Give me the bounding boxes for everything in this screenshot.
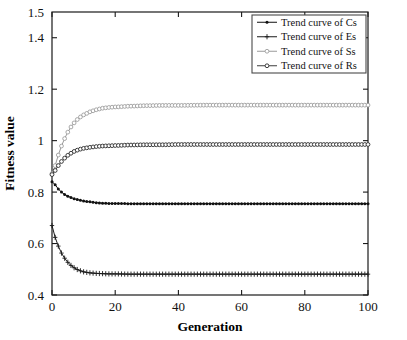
y-tick-label-1.2: 1.2 bbox=[28, 82, 44, 97]
marker-Cs-18 bbox=[107, 202, 110, 205]
legend-label-Cs: Trend curve of Cs bbox=[281, 17, 357, 28]
marker-Cs-49 bbox=[205, 202, 208, 205]
marker-Cs-59 bbox=[237, 202, 240, 205]
marker-Cs-50 bbox=[209, 202, 212, 205]
marker-Cs-55 bbox=[224, 202, 227, 205]
y-tick-label-1: 1 bbox=[38, 133, 45, 148]
marker-Cs-74 bbox=[284, 202, 287, 205]
marker-Cs-39 bbox=[174, 202, 177, 205]
marker-Cs-23 bbox=[123, 202, 126, 205]
y-axis-title: Fitness value bbox=[2, 116, 17, 191]
marker-Ss-6 bbox=[69, 125, 73, 129]
marker-Cs-67 bbox=[262, 202, 265, 205]
marker-Cs-7 bbox=[73, 197, 76, 200]
marker-Cs-64 bbox=[253, 202, 256, 205]
marker-Cs-89 bbox=[332, 202, 335, 205]
marker-Cs-77 bbox=[294, 202, 297, 205]
marker-Cs-75 bbox=[288, 202, 291, 205]
marker-Cs-61 bbox=[243, 202, 246, 205]
marker-Cs-96 bbox=[354, 202, 357, 205]
marker-Cs-11 bbox=[85, 200, 88, 203]
marker-Ss-7 bbox=[72, 121, 76, 125]
marker-Cs-1 bbox=[54, 183, 57, 186]
marker-Cs-92 bbox=[341, 202, 344, 205]
marker-Cs-4 bbox=[63, 193, 66, 196]
marker-Cs-29 bbox=[142, 202, 145, 205]
marker-Cs-22 bbox=[120, 202, 123, 205]
chart-figure: 0204060801000.40.60.811.21.41.5 Generati… bbox=[0, 0, 407, 340]
marker-Ss-100 bbox=[366, 103, 370, 107]
marker-Cs-26 bbox=[133, 202, 136, 205]
marker-Cs-91 bbox=[338, 202, 341, 205]
marker-Cs-19 bbox=[111, 202, 114, 205]
marker-Ss-5 bbox=[66, 130, 70, 134]
marker-Cs-60 bbox=[240, 202, 243, 205]
marker-Cs-73 bbox=[281, 202, 284, 205]
marker-Cs-36 bbox=[164, 202, 167, 205]
marker-Cs-66 bbox=[259, 202, 262, 205]
marker-Cs-98 bbox=[360, 202, 363, 205]
marker-Cs-25 bbox=[130, 202, 133, 205]
x-tick-label-100: 100 bbox=[358, 299, 378, 314]
y-tick-label-1.5: 1.5 bbox=[28, 5, 44, 20]
marker-Cs-54 bbox=[221, 202, 224, 205]
marker-Rs-100 bbox=[366, 143, 370, 147]
y-tick-label-0.6: 0.6 bbox=[28, 236, 45, 251]
marker-Cs-3 bbox=[60, 191, 63, 194]
legend-marker-Ss bbox=[265, 49, 269, 53]
marker-Cs-57 bbox=[231, 202, 234, 205]
legend-label-Es: Trend curve of Es bbox=[281, 31, 356, 42]
legend-marker-Rs bbox=[265, 64, 269, 68]
marker-Cs-34 bbox=[158, 202, 161, 205]
marker-Cs-85 bbox=[319, 202, 322, 205]
marker-Cs-21 bbox=[117, 202, 120, 205]
marker-Rs-3 bbox=[60, 160, 64, 164]
marker-Cs-81 bbox=[306, 202, 309, 205]
marker-Cs-33 bbox=[155, 202, 158, 205]
legend-label-Ss: Trend curve of Ss bbox=[281, 46, 356, 57]
y-tick-label-0.4: 0.4 bbox=[28, 288, 45, 303]
marker-Cs-42 bbox=[183, 202, 186, 205]
marker-Cs-45 bbox=[193, 202, 196, 205]
marker-Cs-97 bbox=[357, 202, 360, 205]
marker-Cs-95 bbox=[351, 202, 354, 205]
marker-Cs-41 bbox=[180, 202, 183, 205]
marker-Cs-51 bbox=[212, 202, 215, 205]
marker-Cs-16 bbox=[101, 202, 104, 205]
marker-Cs-35 bbox=[161, 202, 164, 205]
marker-Rs-0 bbox=[50, 173, 54, 177]
marker-Cs-13 bbox=[92, 201, 95, 204]
marker-Cs-62 bbox=[246, 202, 249, 205]
x-tick-label-0: 0 bbox=[49, 299, 56, 314]
marker-Ss-3 bbox=[60, 144, 64, 148]
marker-Cs-17 bbox=[104, 202, 107, 205]
marker-Cs-48 bbox=[202, 202, 205, 205]
marker-Cs-5 bbox=[66, 195, 69, 198]
marker-Cs-63 bbox=[250, 202, 253, 205]
x-tick-label-60: 60 bbox=[235, 299, 248, 314]
marker-Cs-72 bbox=[278, 202, 281, 205]
marker-Cs-76 bbox=[291, 202, 294, 205]
marker-Cs-47 bbox=[199, 202, 202, 205]
marker-Cs-40 bbox=[177, 202, 180, 205]
marker-Cs-38 bbox=[171, 202, 174, 205]
marker-Cs-43 bbox=[186, 202, 189, 205]
chart-legend[interactable]: Trend curve of CsTrend curve of EsTrend … bbox=[252, 15, 366, 73]
marker-Cs-87 bbox=[325, 202, 328, 205]
marker-Rs-2 bbox=[56, 164, 60, 168]
marker-Cs-6 bbox=[69, 196, 72, 199]
marker-Ss-2 bbox=[56, 153, 60, 157]
marker-Cs-30 bbox=[145, 202, 148, 205]
fitness-trend-chart: 0204060801000.40.60.811.21.41.5 Generati… bbox=[0, 0, 407, 340]
marker-Cs-20 bbox=[114, 202, 117, 205]
marker-Cs-82 bbox=[310, 202, 313, 205]
marker-Cs-88 bbox=[329, 202, 332, 205]
marker-Cs-8 bbox=[76, 198, 79, 201]
marker-Cs-68 bbox=[265, 202, 268, 205]
marker-Cs-28 bbox=[139, 202, 142, 205]
marker-Cs-70 bbox=[272, 202, 275, 205]
marker-Cs-46 bbox=[196, 202, 199, 205]
x-tick-label-20: 20 bbox=[109, 299, 122, 314]
marker-Cs-80 bbox=[303, 202, 306, 205]
marker-Cs-86 bbox=[322, 202, 325, 205]
